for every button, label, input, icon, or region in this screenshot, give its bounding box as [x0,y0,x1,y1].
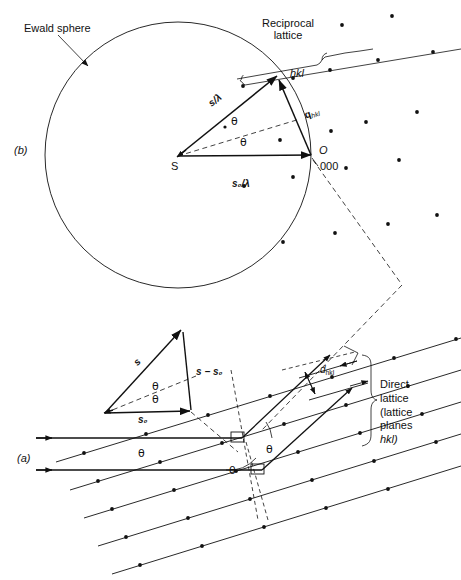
direct-lattice-brace [362,355,377,446]
direct-lattice-line4: planes [380,419,412,431]
lattice-plane-4 [112,466,461,574]
reciprocal-lattice-brace [237,49,373,79]
vector-s0-over-lambda [178,155,311,156]
vector-s0-over-lambda-label: s₀/λ [232,178,250,189]
figure-canvas [0,0,461,580]
triangle-bisector-dashed [105,376,196,413]
triangle-vector-s0 [105,411,190,413]
theta-upper-label-b: θ [231,116,238,128]
diffracted-beam-lower [262,388,352,470]
right-angle-mark [344,346,358,365]
panel-b-label: (b) [14,144,27,156]
d-guide-arrow-upper [340,361,357,366]
diffracted-beam-upper [242,355,330,438]
theta-lower-label-b: θ [240,137,247,149]
vector-triangle-group [104,330,238,452]
theta-incident-lower-label-a: θ [229,465,236,477]
reciprocal-lattice-label-line2: lattice [274,29,303,41]
theta-scatter-right-label-a: θ [266,444,273,456]
triangle-vector-s [105,330,181,413]
ewald-sphere-label: Ewald sphere [24,22,91,34]
direct-lattice-line3: (lattice [380,406,412,418]
d-spacing-label: dhkl [320,364,334,376]
direct-lattice-line5: hkl) [380,433,398,445]
origin-index-label: 000 [320,160,338,172]
source-point-label: S [171,160,178,172]
theta-incident-upper-label-a: θ [138,448,145,460]
lattice-plane-direction-arrows [60,494,76,499]
projection-dashed-line-down [313,160,400,282]
perpendicular-dashed-line [282,352,355,370]
node-hkl-label: hkl [290,67,304,79]
triangle-vector-s0-label: s₀ [138,414,148,425]
origin-node-label: O [319,144,328,156]
triangle-vector-difference-label: s − s₀ [196,366,222,377]
direct-lattice-line1: Direct [380,378,409,390]
vector-s-over-lambda [178,76,277,156]
origin-index-tick [312,158,318,166]
panel-a-label: (a) [17,452,30,464]
reciprocal-lattice-label: Reciprocal lattice [243,17,333,42]
reciprocal-lattice-points [223,14,439,244]
direct-lattice-planes [56,338,461,574]
ewald-sphere-pointer [58,35,88,66]
direct-lattice-line2: lattice [380,392,409,404]
triangle-theta-upper-label: θ [152,381,159,393]
triangle-theta-lower-label: θ [152,394,159,406]
bisector-dashed-line [178,119,300,156]
triangle-vector-difference [183,332,191,410]
lattice-plane-3 [98,434,461,546]
reciprocal-lattice-label-line1: Reciprocal [262,17,314,29]
d-spacing-guide-lower [309,383,368,400]
direct-lattice-label: Direct lattice (lattice planes hkl) [380,378,412,447]
